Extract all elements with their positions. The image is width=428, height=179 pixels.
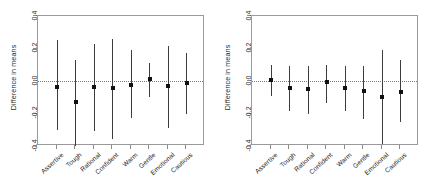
x-tick-mark [148, 145, 149, 149]
error-bar-whisker [326, 65, 327, 103]
x-tick-mark [93, 145, 94, 149]
x-tick-mark [362, 145, 363, 149]
x-category-label-warm: Warm [335, 151, 353, 169]
x-tick-mark [307, 145, 308, 149]
x-category-label-assertive: Assertive [39, 151, 65, 175]
data-point-assertive [55, 85, 59, 89]
x-tick-mark [167, 145, 168, 149]
data-point-warm [343, 86, 347, 90]
x-category-label-warm: Warm [121, 151, 139, 169]
x-tick-mark [399, 145, 400, 149]
data-point-confident [325, 80, 329, 84]
data-point-tough [288, 86, 292, 90]
x-tick-mark [344, 145, 345, 149]
data-point-emotional [380, 95, 384, 99]
figure-container: Difference in means 0.40.20.0-0.2-0.4 As… [0, 0, 428, 179]
y-axis-title-left: Difference in means [8, 10, 20, 145]
x-tick-mark [288, 145, 289, 149]
zero-reference-line-left [38, 81, 203, 82]
data-point-cautious [399, 90, 403, 94]
data-point-tough [74, 100, 78, 104]
x-tick-mark [56, 145, 57, 149]
data-point-warm [129, 83, 133, 87]
plot-area-left [37, 15, 204, 145]
x-tick-mark [185, 145, 186, 149]
data-point-gentle [362, 89, 366, 93]
chart-panel-left: Difference in means 0.40.20.0-0.2-0.4 As… [0, 0, 214, 179]
data-point-confident [111, 86, 115, 90]
data-point-rational [306, 87, 310, 91]
x-tick-mark [130, 145, 131, 149]
x-tick-mark [270, 145, 271, 149]
data-point-rational [92, 85, 96, 89]
y-axis-title-right: Difference in means [222, 10, 234, 145]
data-point-emotional [166, 84, 170, 88]
chart-panel-right: Difference in means 0.40.20.0-0.2-0.4 As… [214, 0, 428, 179]
zero-reference-line-right [252, 81, 417, 82]
x-tick-mark [74, 145, 75, 149]
data-point-assertive [269, 78, 273, 82]
data-point-cautious [185, 81, 189, 85]
x-tick-mark [381, 145, 382, 149]
data-point-gentle [148, 77, 152, 81]
x-category-label-assertive: Assertive [253, 151, 279, 175]
plot-area-right [251, 15, 418, 145]
x-tick-mark [111, 145, 112, 149]
x-tick-mark [325, 145, 326, 149]
